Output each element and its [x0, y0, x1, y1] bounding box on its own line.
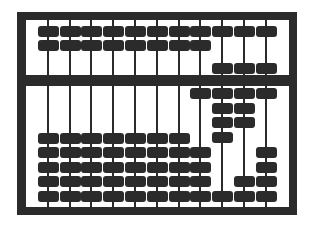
abacus-bead: [103, 40, 124, 51]
abacus: [0, 0, 313, 228]
abacus-bead: [60, 147, 81, 158]
abacus-bead: [169, 147, 190, 158]
abacus-bead: [81, 191, 102, 202]
abacus-bead: [38, 147, 59, 158]
abacus-bead: [234, 103, 255, 114]
abacus-bead: [212, 117, 233, 128]
abacus-bead: [81, 176, 102, 187]
abacus-bead: [147, 162, 168, 173]
abacus-bead: [212, 103, 233, 114]
abacus-bead: [103, 162, 124, 173]
abacus-bead: [147, 26, 168, 37]
abacus-bead: [125, 133, 146, 144]
abacus-bead: [234, 117, 255, 128]
abacus-bead: [38, 162, 59, 173]
abacus-bead: [125, 26, 146, 37]
abacus-bead: [38, 176, 59, 187]
abacus-bead: [38, 26, 59, 37]
abacus-bead: [103, 176, 124, 187]
abacus-bead: [169, 191, 190, 202]
abacus-bead: [256, 162, 277, 173]
abacus-bead: [125, 40, 146, 51]
abacus-bead: [81, 40, 102, 51]
abacus-bead: [125, 147, 146, 158]
abacus-bead: [256, 191, 277, 202]
abacus-bead: [169, 176, 190, 187]
abacus-bead: [234, 26, 255, 37]
abacus-bead: [38, 191, 59, 202]
abacus-bead: [103, 26, 124, 37]
abacus-bead: [125, 176, 146, 187]
abacus-bead: [169, 162, 190, 173]
abacus-bead: [60, 26, 81, 37]
abacus-bead: [103, 191, 124, 202]
abacus-bead: [147, 176, 168, 187]
abacus-bead: [256, 63, 277, 74]
abacus-bead: [81, 162, 102, 173]
abacus-bead: [60, 176, 81, 187]
abacus-bead: [81, 26, 102, 37]
abacus-bead: [125, 162, 146, 173]
abacus-bead: [256, 26, 277, 37]
abacus-bead: [190, 191, 211, 202]
abacus-bead: [190, 88, 211, 99]
abacus-bead: [256, 88, 277, 99]
abacus-bead: [60, 191, 81, 202]
abacus-bead: [190, 162, 211, 173]
abacus-bead: [256, 147, 277, 158]
abacus-bead: [190, 26, 211, 37]
abacus-bead: [60, 162, 81, 173]
abacus-bead: [234, 191, 255, 202]
abacus-bead: [169, 133, 190, 144]
abacus-bead: [256, 176, 277, 187]
abacus-bead: [169, 26, 190, 37]
abacus-bead: [147, 40, 168, 51]
abacus-bead: [103, 133, 124, 144]
abacus-bead: [147, 191, 168, 202]
abacus-bead: [212, 88, 233, 99]
abacus-bead: [212, 26, 233, 37]
abacus-bead: [212, 63, 233, 74]
abacus-bead: [212, 191, 233, 202]
abacus-bead: [125, 191, 146, 202]
abacus-bead: [190, 176, 211, 187]
abacus-bead: [147, 133, 168, 144]
abacus-bead: [38, 40, 59, 51]
abacus-bead: [60, 40, 81, 51]
abacus-bead: [169, 40, 190, 51]
abacus-bead: [234, 63, 255, 74]
abacus-bead: [147, 147, 168, 158]
abacus-bead: [234, 88, 255, 99]
abacus-bead: [190, 40, 211, 51]
abacus-bead: [38, 133, 59, 144]
abacus-bead: [234, 176, 255, 187]
abacus-bead: [212, 132, 233, 143]
abacus-bead: [60, 133, 81, 144]
abacus-bead: [103, 147, 124, 158]
abacus-bead: [81, 133, 102, 144]
abacus-bead: [81, 147, 102, 158]
abacus-bead: [190, 147, 211, 158]
